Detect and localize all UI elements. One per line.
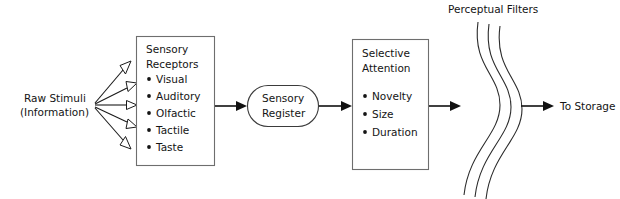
bullet-icon [363, 112, 367, 116]
to-storage-label: To Storage [559, 100, 615, 112]
raw-stimuli-label-line2: (Information) [20, 106, 89, 118]
connector-receptors-to-register [215, 101, 247, 111]
connector-register-to-attention [319, 101, 352, 111]
perceptual-filter-curves [464, 22, 522, 199]
diagram-canvas: Raw Stimuli (Information) Sensory Recept… [0, 0, 620, 199]
stimulus-arrow-4 [95, 107, 137, 129]
perceptual-filter-curve-3 [486, 26, 522, 199]
sensory-receptors-item-3: Tactile [155, 124, 189, 136]
bullet-icon [147, 128, 151, 132]
selective-attention-heading-line2: Attention [362, 62, 410, 74]
sensory-receptors-item-2: Olfactic [156, 107, 196, 119]
selective-attention-box [353, 40, 429, 170]
bullet-icon [147, 94, 151, 98]
sensory-receptors-heading-line2: Receptors [146, 58, 199, 70]
diagram-svg: Raw Stimuli (Information) Sensory Recept… [0, 0, 620, 199]
sensory-receptors-item-4: Taste [155, 141, 183, 153]
bullet-icon [147, 145, 151, 149]
selective-attention-item-1: Size [372, 108, 394, 120]
connector-filters-to-storage [521, 101, 554, 111]
stimulus-arrow-2 [95, 82, 137, 105]
sensory-receptors-heading-line1: Sensory [146, 43, 188, 55]
sensory-register-line1: Sensory [262, 92, 304, 104]
selective-attention-item-2: Duration [372, 126, 418, 138]
raw-stimuli-label-line1: Raw Stimuli [24, 92, 86, 104]
perceptual-filters-label: Perceptual Filters [448, 3, 538, 15]
sensory-receptors-item-0: Visual [156, 73, 187, 85]
bullet-icon [147, 77, 151, 81]
bullet-icon [363, 94, 367, 98]
connector-attention-to-filters [429, 101, 461, 111]
selective-attention-item-0: Novelty [372, 90, 412, 102]
stimulus-arrow-3 [95, 101, 137, 110]
bullet-icon [363, 130, 367, 134]
selective-attention-heading-line1: Selective [362, 47, 410, 59]
sensory-receptors-item-1: Auditory [156, 90, 201, 102]
sensory-register-line2: Register [262, 107, 306, 119]
bullet-icon [147, 111, 151, 115]
